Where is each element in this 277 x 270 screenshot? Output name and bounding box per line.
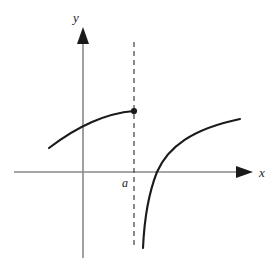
y-axis-arrowhead-icon bbox=[77, 27, 89, 44]
x-axis-label: x bbox=[258, 165, 265, 180]
curve-right-branch bbox=[143, 119, 240, 248]
graph-figure: y x a bbox=[0, 0, 277, 270]
filled-endpoint-dot bbox=[131, 108, 137, 114]
curve-left-branch bbox=[49, 111, 134, 148]
x-axis-arrowhead-icon bbox=[236, 166, 253, 178]
y-axis-label: y bbox=[71, 10, 79, 25]
x-value-a-label: a bbox=[122, 176, 128, 190]
function-graph-canvas: y x a bbox=[0, 0, 277, 270]
